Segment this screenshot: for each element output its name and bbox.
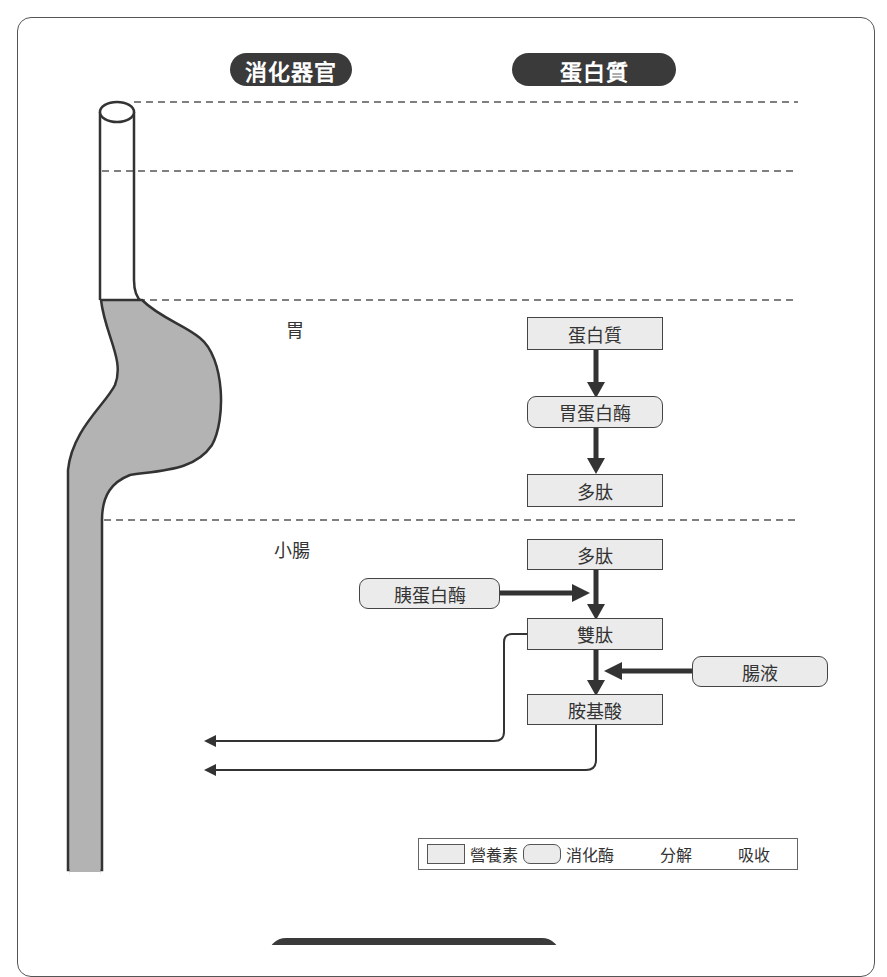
nutrient-box-polypeptide-intestine: 多肽 [527,539,663,570]
legend-absorb-label: 吸收 [738,842,770,866]
nutrient-box-protein: 蛋白質 [527,317,663,350]
nutrient-column-title: 蛋白質 [512,53,676,86]
organ-label-stomach: 胃 [286,316,304,342]
legend-absorb-arrow-icon [697,847,733,861]
legend-enzyme-label: 消化酶 [566,842,614,866]
organ-label-small-intestine: 小腸 [274,536,310,562]
organ-column-title: 消化器官 [230,53,352,86]
enzyme-box-trypsin: 胰蛋白酶 [359,578,500,609]
enzyme-box-pepsin: 胃蛋白酶 [527,396,663,428]
nutrient-box-polypeptide-stomach: 多肽 [527,474,663,507]
legend-decompose-arrow-icon [619,847,655,861]
nutrient-box-amino-acid: 胺基酸 [527,694,663,725]
esophagus-icon [100,102,142,302]
enzyme-box-intestinal-juice: 腸液 [692,656,828,687]
bottom-pill [268,938,560,945]
legend-nutrient-label: 營養素 [470,842,518,866]
legend-decompose-label: 分解 [660,842,692,866]
legend-nutrient-swatch [427,844,465,864]
stomach-intestine-icon [68,300,221,870]
nutrient-box-dipeptide: 雙肽 [527,618,663,650]
legend: 營養素 消化酶 分解 吸收 [418,838,798,870]
legend-enzyme-swatch [523,844,561,864]
